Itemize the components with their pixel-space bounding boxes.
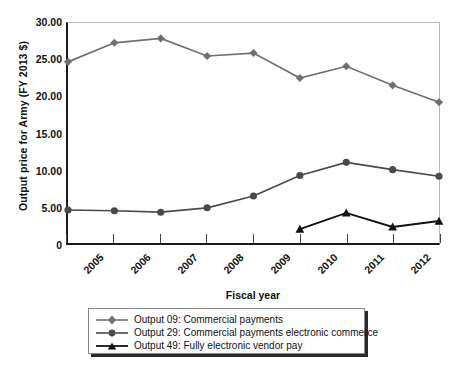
series-line [68, 38, 439, 102]
plot-area [66, 22, 440, 245]
data-point-marker [64, 206, 71, 213]
data-point-marker [249, 49, 257, 57]
x-tick-mark [253, 234, 254, 243]
legend-label: Output 09: Commercial payments [134, 314, 283, 326]
data-point-marker [296, 172, 303, 179]
y-tick-label: 0 [10, 239, 62, 251]
data-point-marker [435, 173, 442, 180]
data-point-marker [296, 74, 304, 82]
y-tick-label: 30.00 [10, 16, 62, 28]
x-tick-mark [206, 234, 207, 243]
chart-figure: Output price for Army (FY 2013 $) 05.001… [0, 0, 451, 365]
data-series [296, 209, 444, 233]
y-tick-label: 20.00 [10, 90, 62, 102]
chart-legend: Output 09: Commercial payments Output 29… [88, 308, 365, 354]
data-point-marker [389, 81, 397, 89]
y-tick-label: 10.00 [10, 165, 62, 177]
data-series [64, 34, 443, 106]
x-tick-mark [160, 234, 161, 243]
x-axis-title: Fiscal year [66, 289, 440, 301]
x-tick-mark [113, 234, 114, 243]
x-tick-label: 2009 [268, 251, 293, 276]
x-tick-label: 2005 [81, 251, 106, 276]
data-point-marker [204, 204, 211, 211]
x-tick-mark [66, 234, 67, 243]
legend-marker-triangle-icon [95, 340, 129, 352]
x-tick-label: 2011 [361, 251, 386, 276]
data-point-marker [435, 98, 443, 106]
data-series [64, 159, 442, 216]
legend-marker-diamond-icon [95, 314, 129, 326]
data-point-marker [157, 34, 165, 42]
x-tick-label: 2012 [408, 251, 433, 276]
data-point-marker [342, 209, 351, 217]
legend-label: Output 49: Fully electronic vendor pay [134, 340, 302, 352]
x-tick-mark [300, 234, 301, 243]
data-point-marker [64, 58, 72, 66]
data-point-marker [110, 39, 118, 47]
data-point-marker [342, 62, 350, 70]
x-tick-mark [393, 234, 394, 243]
x-tick-mark [440, 234, 441, 243]
x-tick-label: 2007 [174, 251, 199, 276]
data-point-marker [343, 159, 350, 166]
legend-marker-circle-icon [95, 327, 129, 339]
x-tick-label: 2008 [221, 251, 246, 276]
data-point-marker [389, 166, 396, 173]
legend-item: Output 49: Fully electronic vendor pay [95, 340, 358, 353]
data-point-marker [157, 209, 164, 216]
series-line [300, 213, 439, 229]
y-tick-label: 15.00 [10, 128, 62, 140]
y-tick-label: 25.00 [10, 53, 62, 65]
x-tick-label: 2006 [128, 251, 153, 276]
data-point-marker [111, 207, 118, 214]
series-canvas [68, 23, 439, 243]
legend-label: Output 29: Commercial payments electroni… [134, 327, 378, 339]
y-axis-ticks: 05.0010.0015.0020.0025.0030.00 [0, 22, 62, 245]
legend-item: Output 29: Commercial payments electroni… [95, 327, 358, 340]
data-point-marker [250, 193, 257, 200]
data-point-marker [203, 52, 211, 60]
series-line [68, 162, 439, 212]
y-tick-label: 5.00 [10, 202, 62, 214]
x-tick-label: 2010 [315, 251, 340, 276]
legend-item: Output 09: Commercial payments [95, 314, 358, 327]
x-tick-mark [347, 234, 348, 243]
